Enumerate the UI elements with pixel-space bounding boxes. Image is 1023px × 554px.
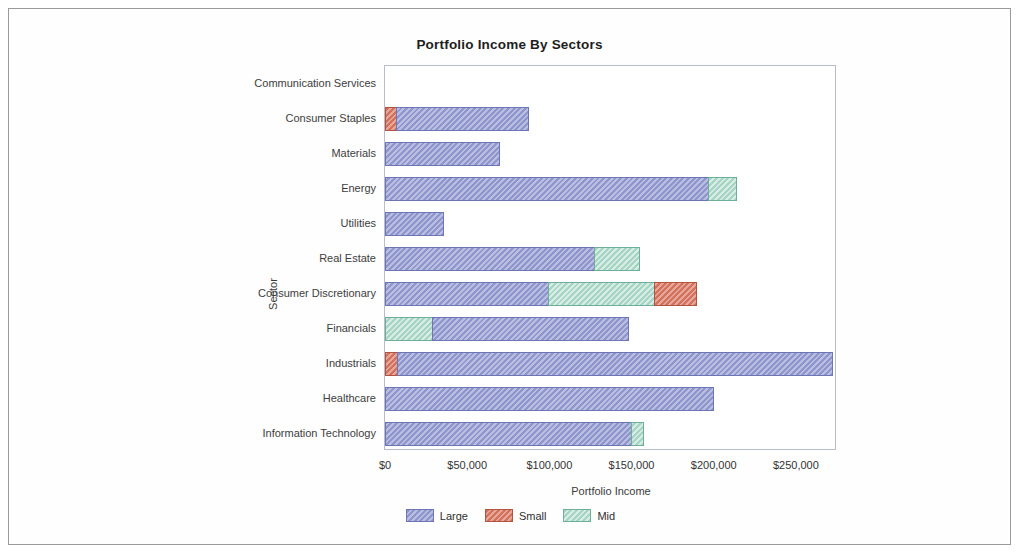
legend-item-small[interactable]: Small (485, 509, 547, 522)
y-axis-tick-label: Energy (341, 171, 385, 206)
stacked-bar[interactable] (385, 387, 714, 411)
bar-row: Utilities (385, 206, 835, 241)
legend-swatch-mid (563, 509, 591, 522)
stacked-bar[interactable] (385, 142, 500, 166)
stacked-bar[interactable] (385, 177, 737, 201)
y-axis-tick-label: Financials (326, 311, 385, 346)
x-axis-title: Portfolio Income (385, 485, 837, 497)
y-axis-tick-label: Utilities (341, 206, 385, 241)
legend-label: Mid (597, 510, 615, 522)
x-axis-tick-label: $50,000 (447, 459, 487, 471)
stacked-bar[interactable] (385, 422, 644, 446)
stacked-bar[interactable] (385, 317, 629, 341)
bar-segment-large[interactable] (385, 387, 714, 411)
x-axis-tick-label: $100,000 (526, 459, 572, 471)
bar-segment-large[interactable] (397, 352, 833, 376)
bar-segment-small[interactable] (654, 282, 697, 306)
bar-segment-large[interactable] (385, 212, 444, 236)
bar-row: Energy (385, 171, 835, 206)
bar-segment-large[interactable] (385, 282, 549, 306)
bar-segment-mid[interactable] (708, 177, 738, 201)
stacked-bar[interactable] (385, 247, 640, 271)
bar-segment-mid[interactable] (548, 282, 655, 306)
legend-swatch-small (485, 509, 513, 522)
y-axis-tick-label: Real Estate (319, 241, 385, 276)
y-axis-tick-label: Information Technology (262, 416, 385, 451)
stacked-bar[interactable] (385, 352, 833, 376)
screenshot-root: Portfolio Income By Sectors Sector Commu… (0, 0, 1023, 554)
legend-item-mid[interactable]: Mid (563, 509, 615, 522)
y-axis-tick-label: Healthcare (323, 381, 385, 416)
bar-segment-large[interactable] (385, 422, 632, 446)
bar-segment-large[interactable] (385, 247, 595, 271)
document-page-border: Portfolio Income By Sectors Sector Commu… (8, 8, 1011, 545)
bar-row: Real Estate (385, 241, 835, 276)
bar-row: Industrials (385, 346, 835, 381)
bar-row: Financials (385, 311, 835, 346)
y-axis-tick-label: Consumer Discretionary (258, 276, 385, 311)
bar-segment-mid[interactable] (631, 422, 644, 446)
stacked-bar[interactable] (385, 212, 444, 236)
legend-item-large[interactable]: Large (406, 509, 468, 522)
plot-area: Sector Communication ServicesConsumer St… (384, 65, 836, 450)
bar-segment-mid[interactable] (385, 317, 433, 341)
y-axis-tick-label: Consumer Staples (286, 101, 386, 136)
stacked-bar[interactable] (385, 282, 697, 306)
bar-segment-large[interactable] (385, 177, 709, 201)
y-axis-tick-label: Industrials (326, 346, 385, 381)
x-axis-tick-label: $0 (379, 459, 391, 471)
bar-segment-large[interactable] (385, 142, 500, 166)
chart-legend: LargeSmallMid (9, 509, 1012, 522)
bar-row: Healthcare (385, 381, 835, 416)
x-axis-tick-label: $200,000 (691, 459, 737, 471)
y-axis-tick-label: Communication Services (254, 66, 385, 101)
y-axis-tick-label: Materials (331, 136, 385, 171)
bar-segment-large[interactable] (432, 317, 629, 341)
bar-row: Consumer Staples (385, 101, 835, 136)
bar-row: Information Technology (385, 416, 835, 451)
chart-title: Portfolio Income By Sectors (8, 37, 1011, 52)
x-axis-tick-label: $250,000 (773, 459, 819, 471)
bar-segment-mid[interactable] (594, 247, 640, 271)
stacked-bar[interactable] (385, 107, 529, 131)
legend-swatch-large (406, 509, 434, 522)
bar-row: Materials (385, 136, 835, 171)
bar-row: Communication Services (385, 66, 835, 101)
legend-label: Small (519, 510, 547, 522)
bar-segment-large[interactable] (396, 107, 529, 131)
portfolio-income-bar-chart: Portfolio Income By Sectors Sector Commu… (9, 9, 1012, 546)
bar-row: Consumer Discretionary (385, 276, 835, 311)
legend-label: Large (440, 510, 468, 522)
x-axis-tick-label: $150,000 (609, 459, 655, 471)
